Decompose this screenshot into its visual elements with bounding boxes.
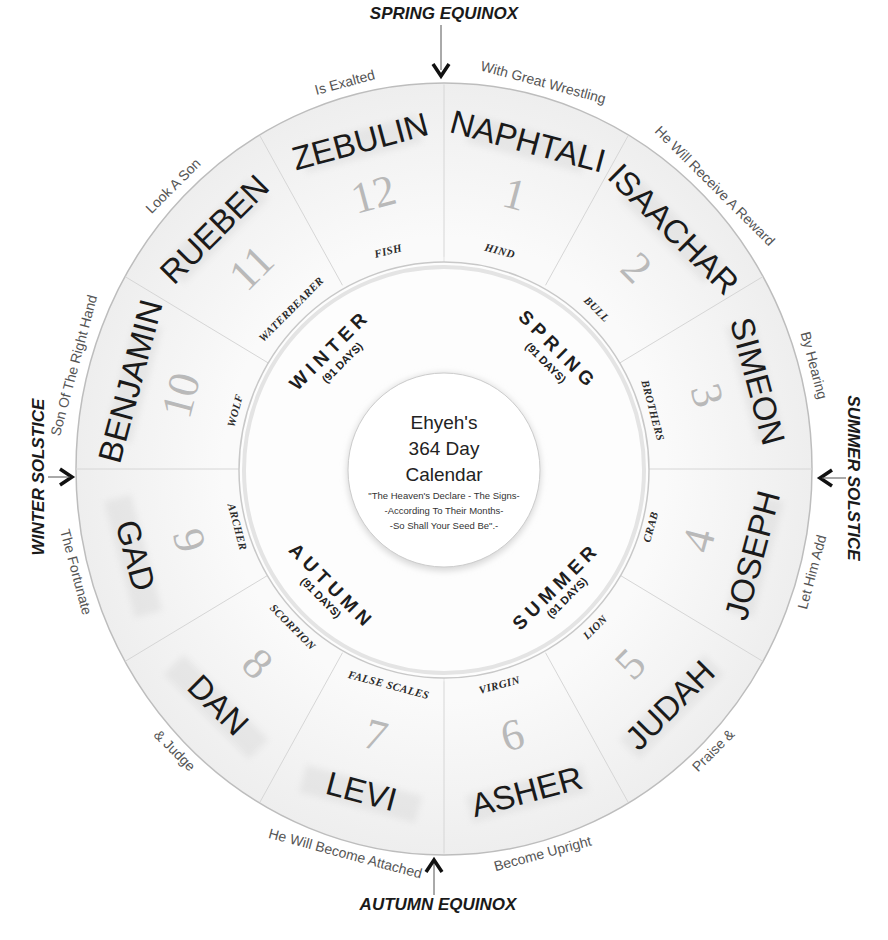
center-title-line-2: 364 Day [409, 438, 480, 459]
calendar-wheel: NAPHTALIWith Great Wrestling1HINDISAACHA… [0, 0, 888, 940]
summer-solstice-marker: SUMMER SOLSTICE [820, 395, 863, 561]
winter-solstice-label: WINTER SOLSTICE [29, 398, 48, 555]
center-title-line-3: Calendar [405, 464, 483, 485]
summer-solstice-label: SUMMER SOLSTICE [844, 395, 863, 561]
center-quote-line-1: "The Heaven's Declare - The Signs- [368, 490, 519, 501]
center-title-line-1: Ehyeh's [410, 412, 477, 433]
spring-equinox-label: SPRING EQUINOX [370, 4, 520, 23]
center-quote-line-2: -According To Their Months- [385, 505, 504, 516]
center-quote-line-3: -So Shall Your Seed Be".- [390, 520, 498, 531]
autumn-equinox-label: AUTUMN EQUINOX [359, 895, 518, 914]
